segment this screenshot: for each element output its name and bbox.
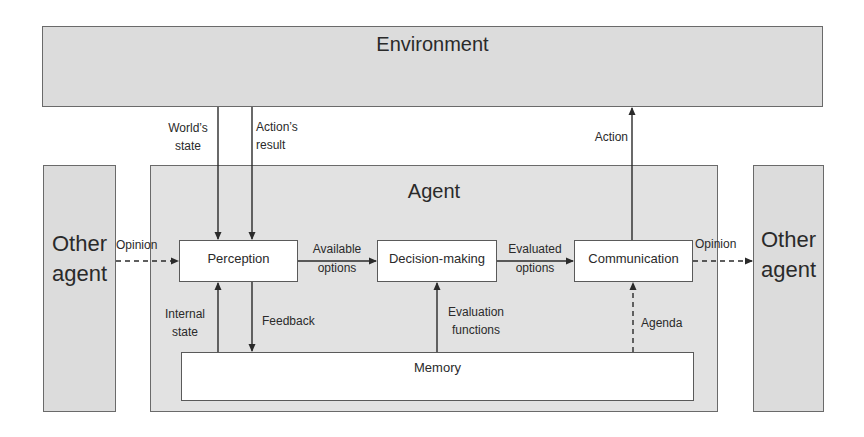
- opinion-out-label: Opinion: [695, 235, 751, 253]
- memory-module: Memory: [181, 352, 694, 401]
- memory-label: Memory: [182, 359, 693, 377]
- internal-state-label: Internal state: [156, 305, 214, 341]
- evaluation-functions-label: Evaluation functions: [443, 303, 509, 339]
- perception-label: Perception: [207, 251, 269, 266]
- available-options-label: Available options: [300, 240, 374, 278]
- opinion-in-label: Opinion: [116, 236, 166, 254]
- worlds-state-label: World’s state: [160, 119, 216, 155]
- communication-label: Communication: [588, 251, 678, 266]
- other-agent-left-label: Other agent: [44, 229, 115, 289]
- decision-making-label: Decision-making: [389, 251, 485, 266]
- other-agent-right-box: Other agent: [753, 165, 824, 412]
- agent-label: Agent: [151, 182, 717, 200]
- decision-making-module: Decision-making: [377, 240, 497, 282]
- actions-result-label: Action’s result: [256, 118, 310, 154]
- environment-box: Environment: [42, 26, 823, 107]
- perception-module: Perception: [179, 240, 298, 282]
- other-agent-right-label: Other agent: [754, 225, 823, 285]
- evaluated-options-label: Evaluated options: [499, 240, 571, 278]
- agenda-label: Agenda: [641, 314, 691, 332]
- action-label: Action: [580, 128, 628, 146]
- other-agent-left-box: Other agent: [43, 165, 116, 412]
- feedback-label: Feedback: [262, 312, 322, 330]
- environment-label: Environment: [43, 35, 822, 53]
- communication-module: Communication: [574, 240, 693, 282]
